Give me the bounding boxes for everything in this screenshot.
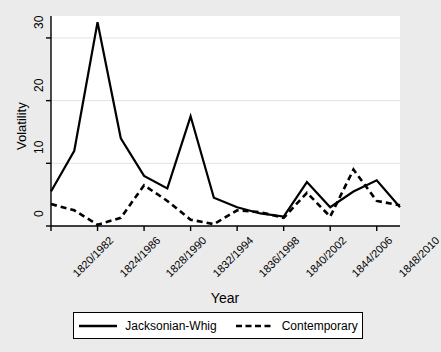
solid-line-swatch bbox=[78, 321, 118, 331]
legend-label-jacksonian-whig: Jacksonian-Whig bbox=[125, 319, 216, 333]
chart-legend: Jacksonian-Whig Contemporary bbox=[73, 312, 363, 339]
legend-item-contemporary: Contemporary bbox=[235, 319, 358, 333]
legend-label-contemporary: Contemporary bbox=[282, 319, 358, 333]
series-line-jacksonian-whig bbox=[51, 22, 400, 216]
legend-item-jacksonian-whig: Jacksonian-Whig bbox=[78, 319, 216, 333]
series-line-contemporary bbox=[51, 170, 400, 225]
x-tick-marks bbox=[51, 226, 377, 231]
x-axis-title: Year bbox=[150, 290, 300, 306]
y-tick-marks bbox=[46, 38, 51, 226]
y-axis-title: Volatility bbox=[14, 102, 29, 150]
data-series-layer bbox=[51, 22, 400, 224]
dashed-line-swatch bbox=[235, 321, 275, 331]
